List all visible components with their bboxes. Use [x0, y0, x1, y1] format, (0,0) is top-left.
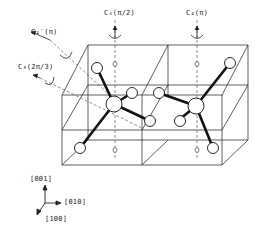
c3-axis-label: C₃(2π/3): [18, 63, 53, 71]
axis-markers: [113, 62, 199, 153]
atom-center: [188, 98, 204, 114]
atom-neighbor: [92, 63, 103, 74]
unit-cell-wireframe: [62, 45, 248, 165]
atom-neighbor: [208, 143, 219, 154]
atom-neighbor: [225, 58, 236, 69]
atoms: [75, 58, 236, 154]
bonds: [80, 63, 230, 148]
axis-label-010: [010]: [64, 198, 86, 206]
c4-axis-label: C₄(π/2): [104, 9, 135, 17]
atom-neighbor: [154, 88, 165, 99]
c2prime-axis-label: C₂′(π): [31, 28, 58, 36]
axis-label-100: [100]: [45, 215, 67, 223]
axes-legend-arrows: [37, 185, 61, 215]
symmetry-axis-lines: [40, 20, 197, 160]
c2-axis-label: C₂(π): [186, 9, 208, 17]
atom-neighbor: [175, 116, 186, 127]
atom-neighbor: [127, 88, 138, 99]
atom-neighbor: [145, 116, 156, 127]
atom-center: [106, 96, 122, 112]
atom-neighbor: [75, 143, 86, 154]
axis-label-001: [001]: [30, 175, 52, 183]
